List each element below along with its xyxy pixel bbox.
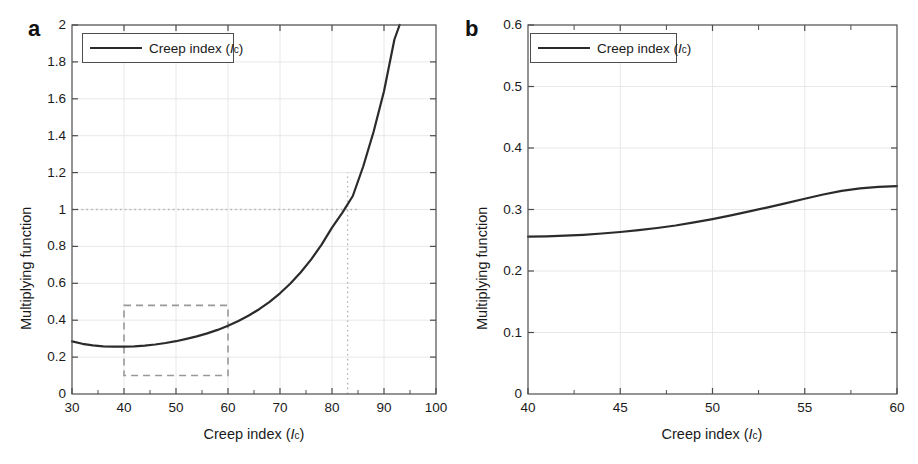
panel-b-ytick-0p5: 0.5	[478, 79, 522, 94]
panel-b-xaxis-title: Creep index (Ic)	[592, 426, 832, 442]
panel-a: a	[0, 0, 459, 464]
panel-a-ytick-2: 2	[22, 17, 66, 32]
panel-a-gridlines	[72, 25, 436, 394]
panel-b-ytick-0p4: 0.4	[478, 140, 522, 155]
panel-a-yaxis-title: Multiplying function	[18, 207, 34, 330]
panel-a-xtick-90: 90	[364, 400, 404, 415]
panel-a-xtick-50: 50	[156, 400, 196, 415]
legend-line-swatch	[538, 47, 590, 49]
panel-b-xtick-50: 50	[693, 400, 733, 415]
panel-a-ytick-0p2: 0.2	[22, 349, 66, 364]
panel-a-xaxis-title: Creep index (Ic)	[134, 426, 374, 442]
panel-a-ytick-0: 0	[22, 386, 66, 401]
panel-a-xtick-30: 30	[52, 400, 92, 415]
panel-b-ytick-0p6: 0.6	[478, 17, 522, 32]
panel-b-legend: Creep index (Ic)	[530, 33, 677, 63]
panel-a-xtick-60: 60	[208, 400, 248, 415]
legend-label-creep-index: Creep index (Ic)	[149, 41, 243, 56]
panel-a-ytick-1p8: 1.8	[22, 54, 66, 69]
panel-a-xtick-100: 100	[416, 400, 456, 415]
panel-a-plot	[0, 0, 459, 464]
panel-b-gridlines	[528, 25, 897, 394]
panel-b-plot	[459, 0, 918, 464]
panel-a-xtick-70: 70	[260, 400, 300, 415]
panel-b-yaxis-title: Multiplying function	[474, 207, 490, 330]
panel-b-xtick-40: 40	[508, 400, 548, 415]
panel-b-xtick-60: 60	[877, 400, 917, 415]
legend-line-swatch	[90, 47, 142, 49]
panel-a-ytick-1p4: 1.4	[22, 128, 66, 143]
panel-a-legend: Creep index (Ic)	[82, 33, 234, 63]
panel-a-xtick-80: 80	[312, 400, 352, 415]
panel-b-ytick-0: 0	[478, 386, 522, 401]
panel-b: b	[459, 0, 918, 464]
figure-two-panel-line-charts: a	[0, 0, 918, 464]
panel-a-ytick-1p2: 1.2	[22, 165, 66, 180]
panel-b-xtick-45: 45	[600, 400, 640, 415]
panel-b-xtick-55: 55	[785, 400, 825, 415]
legend-label-creep-index: Creep index (Ic)	[597, 41, 691, 56]
panel-a-xtick-40: 40	[104, 400, 144, 415]
panel-a-ytick-1p6: 1.6	[22, 91, 66, 106]
panel-a-curve-creep-index	[72, 25, 400, 347]
